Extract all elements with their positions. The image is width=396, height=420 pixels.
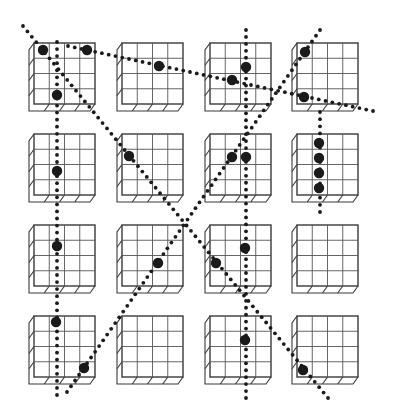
line-dot	[244, 209, 248, 213]
line-dot	[110, 132, 114, 136]
line-dot	[55, 40, 59, 44]
cube-3-2	[205, 316, 271, 384]
dotted-line-diagonal-down-left	[65, 28, 322, 394]
line-dot	[218, 172, 222, 176]
line-dot	[55, 125, 59, 129]
line-dot	[256, 85, 260, 89]
line-dot	[246, 132, 250, 136]
line-dot	[55, 280, 59, 284]
marker-dot	[52, 166, 62, 176]
line-dot	[188, 70, 192, 74]
line-dot	[55, 379, 59, 383]
line-dot	[244, 111, 248, 115]
line-dot	[286, 74, 290, 78]
line-dot	[141, 281, 145, 285]
depth-row-edge	[117, 331, 122, 338]
line-dot	[109, 327, 113, 331]
cube-2-0	[29, 225, 95, 293]
line-dot	[117, 315, 121, 319]
line-dot	[120, 56, 124, 60]
line-dot	[244, 229, 248, 233]
line-dot	[21, 24, 25, 28]
line-dot	[198, 200, 202, 204]
marker-dot	[82, 45, 92, 55]
line-dot	[290, 68, 294, 72]
line-dot	[65, 390, 69, 394]
line-dot	[189, 229, 193, 233]
line-dot	[161, 252, 165, 256]
line-dot	[344, 103, 348, 107]
line-dot	[55, 153, 59, 157]
line-dot	[250, 126, 254, 130]
line-dot	[171, 207, 175, 211]
line-dot	[165, 246, 169, 250]
line-dot	[66, 44, 70, 48]
depth-col-edge	[236, 104, 241, 111]
line-dot	[244, 257, 248, 261]
line-dot	[55, 181, 59, 185]
line-dot	[70, 83, 74, 87]
line-dot	[273, 331, 277, 335]
depth-row-edge	[117, 74, 122, 81]
line-dot	[195, 72, 199, 76]
line-dot	[244, 368, 248, 372]
line-dot	[55, 259, 59, 263]
line-dot	[244, 375, 248, 379]
line-dot	[242, 137, 246, 141]
line-dot	[105, 333, 109, 337]
line-dot	[55, 252, 59, 256]
line-dot	[65, 78, 69, 82]
depth-row-edge	[205, 331, 210, 338]
line-dot	[96, 116, 100, 120]
line-dot	[100, 51, 104, 55]
line-dot	[83, 100, 87, 104]
line-dot	[244, 278, 248, 282]
line-dot	[154, 186, 158, 190]
line-dot	[55, 337, 59, 341]
depth-col-edge	[44, 377, 49, 384]
line-dot	[215, 76, 219, 80]
line-dot	[244, 125, 248, 129]
line-dot	[194, 206, 198, 210]
depth-row-edge	[29, 271, 34, 278]
line-dot	[317, 385, 321, 389]
line-dot	[318, 124, 322, 128]
marker-dot	[51, 317, 61, 327]
depth-col-edge	[163, 286, 168, 293]
line-dot	[55, 266, 59, 270]
line-dot	[93, 50, 97, 54]
line-dot	[193, 234, 197, 238]
depth-col-edge	[323, 195, 328, 202]
depth-row-edge	[205, 180, 210, 187]
depth-col-edge	[220, 377, 225, 384]
cube-2-3	[292, 225, 358, 293]
line-dot	[286, 348, 290, 352]
line-dot	[283, 90, 287, 94]
line-dot	[55, 365, 59, 369]
line-dot	[282, 342, 286, 346]
line-dot	[55, 308, 59, 312]
line-dot	[298, 57, 302, 61]
line-dot	[167, 202, 171, 206]
line-dot	[55, 111, 59, 115]
line-dot	[26, 29, 30, 33]
line-dot	[244, 195, 248, 199]
line-dot	[73, 379, 77, 383]
line-dot	[278, 86, 282, 90]
line-dot	[318, 132, 322, 136]
line-dot	[294, 63, 298, 67]
depth-col-edge	[220, 195, 225, 202]
line-dot	[244, 354, 248, 358]
depth-col-edge	[132, 104, 137, 111]
depth-col-edge	[251, 195, 256, 202]
line-dot	[210, 183, 214, 187]
line-dot	[107, 53, 111, 57]
line-dot	[207, 251, 211, 255]
line-dot	[330, 100, 334, 104]
line-dot	[114, 54, 118, 58]
line-dot	[244, 91, 248, 95]
cube-1-1	[117, 134, 183, 202]
depth-row-edge	[292, 165, 297, 172]
depth-col-edge	[148, 377, 153, 384]
line-dot	[134, 59, 138, 63]
